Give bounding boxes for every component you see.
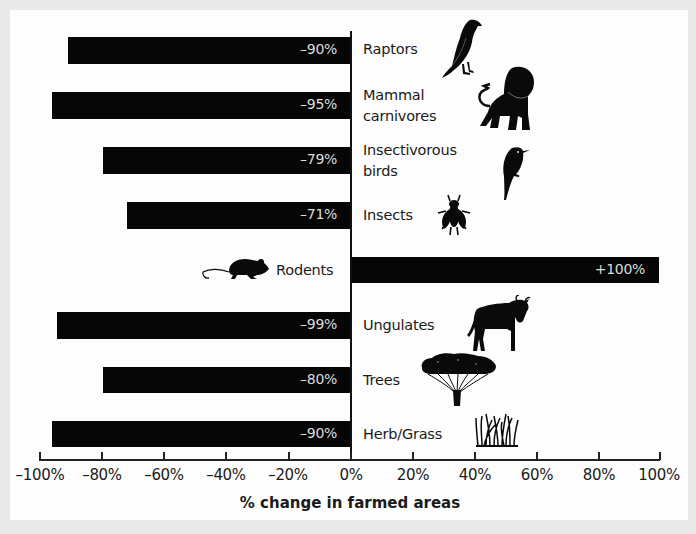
x-axis-title: % change in farmed areas [240,494,460,512]
x-tick-label: 40% [459,466,491,484]
x-tick [474,452,476,460]
bar-mammal-carnivores: –95% [52,92,351,119]
label-text: Ungulates [363,317,434,333]
x-tick [288,452,290,460]
x-tick-label: –40% [206,466,246,484]
fly-icon [434,193,474,237]
value-label: –79% [300,151,337,167]
bar-ungulates: –99% [57,312,351,339]
label-line-1: Insectivorous [363,140,457,161]
category-label-insects: Insects [363,205,413,226]
label-text: Raptors [363,41,418,57]
label-text: Herb/Grass [363,426,442,442]
value-label: –90% [300,41,337,57]
x-tick-label: 60% [521,466,553,484]
category-label-rodents: Rodents [276,260,333,281]
x-tick-label: –20% [268,466,308,484]
category-label-raptors: Raptors [363,39,418,60]
x-tick-label: 20% [397,466,429,484]
label-text: Insects [363,207,413,223]
bar-raptors: –90% [68,37,351,64]
category-label-trees: Trees [363,370,400,391]
label-line-2: birds [363,161,457,182]
value-label: –95% [300,96,337,112]
mouse-icon [201,255,271,283]
wildebeest-icon [463,295,533,355]
x-tick-label: –80% [82,466,122,484]
x-tick [39,452,41,460]
bar-herb-grass: –90% [52,421,351,447]
x-tick [536,452,538,460]
bar-chart: –90% –95% –79% –71% +100% –99% –80% –90%… [0,0,696,534]
label-text: Trees [363,372,400,388]
grass-icon [474,412,520,448]
x-tick [412,452,414,460]
value-label: –71% [300,206,337,222]
x-tick-label: 100% [638,466,680,484]
x-tick [225,452,227,460]
x-tick [101,452,103,460]
category-label-mammal-carnivores: Mammal carnivores [363,85,436,127]
x-tick-label: 0% [339,466,362,484]
bar-insectivorous-birds: –79% [103,147,351,174]
category-label-herb-grass: Herb/Grass [363,424,442,445]
x-tick [350,452,352,460]
label-line-2: carnivores [363,106,436,127]
category-label-insectivorous-birds: Insectivorous birds [363,140,457,182]
acacia-tree-icon [418,352,498,408]
value-label: +100% [595,261,645,277]
zero-axis-line [350,31,352,460]
x-tick [163,452,165,460]
label-line-1: Mammal [363,85,436,106]
kingfisher-icon [496,144,530,202]
x-tick-label: –60% [144,466,184,484]
x-tick-label: –100% [16,466,65,484]
lion-icon [476,64,538,134]
x-tick-label: 80% [583,466,615,484]
value-label: –99% [300,316,337,332]
value-label: –90% [300,425,337,441]
bar-insects: –71% [127,202,351,229]
category-label-ungulates: Ungulates [363,315,434,336]
bar-rodents: +100% [351,257,659,283]
x-tick [659,452,661,460]
label-text: Rodents [276,262,333,278]
bar-trees: –80% [103,367,351,393]
value-label: –80% [300,371,337,387]
x-tick [598,452,600,460]
